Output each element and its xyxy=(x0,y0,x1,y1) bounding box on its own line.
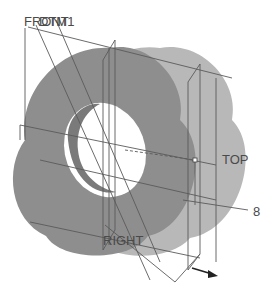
datum-point[interactable] xyxy=(193,158,197,162)
part-body[interactable] xyxy=(13,47,246,256)
datum-label-top[interactable]: TOP xyxy=(222,153,249,166)
model-graphics xyxy=(0,0,274,298)
callout-label: 8 xyxy=(253,205,260,218)
arrow-right-icon[interactable] xyxy=(192,268,218,278)
datum-label-right[interactable]: RIGHT xyxy=(103,234,143,247)
datum-label-dtm1[interactable]: DTM1 xyxy=(39,15,74,28)
model-viewport[interactable]: FRONT DTM1 TOP RIGHT 8 xyxy=(0,0,274,298)
